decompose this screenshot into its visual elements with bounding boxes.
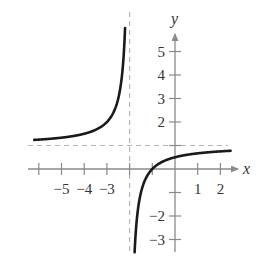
y-tick-label: −2 xyxy=(149,208,165,224)
y-tick-label: 4 xyxy=(158,67,166,83)
y-tick-label: 2 xyxy=(158,114,166,130)
x-axis-label: x xyxy=(242,160,250,177)
axes xyxy=(28,34,238,252)
left-branch-curve xyxy=(34,28,125,140)
graph: −5−4−3125432−2−3 x y xyxy=(0,0,277,266)
y-tick-label: 3 xyxy=(158,91,166,107)
y-axis-label: y xyxy=(169,10,179,28)
y-tick-label: −3 xyxy=(149,232,165,248)
x-tick-label: 2 xyxy=(217,181,225,197)
asymptotes xyxy=(28,12,228,252)
function-plot: −5−4−3125432−2−3 x y xyxy=(0,0,277,266)
y-tick-label: 5 xyxy=(158,44,166,60)
x-tick-label: 1 xyxy=(194,181,202,197)
x-tick-label: −3 xyxy=(99,181,115,197)
x-tick-label: −4 xyxy=(76,181,92,197)
x-tick-label: −5 xyxy=(54,181,70,197)
curves xyxy=(34,28,230,252)
